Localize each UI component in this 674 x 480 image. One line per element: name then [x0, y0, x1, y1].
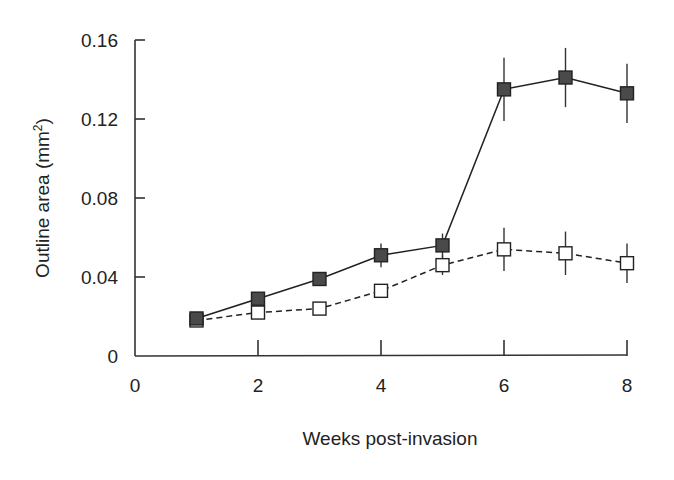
- filled-square-marker: [190, 312, 203, 325]
- series-filled: [190, 48, 634, 325]
- open-square-marker: [559, 247, 572, 260]
- filled-square-marker: [436, 239, 449, 252]
- y-tick-label: 0.12: [81, 109, 118, 130]
- x-tick-label: 6: [499, 375, 510, 396]
- y-axis-title-end: ): [32, 118, 53, 124]
- line-chart: 00.040.080.120.1602468 Weeks post-invasi…: [0, 0, 674, 480]
- filled-square-marker: [252, 292, 265, 305]
- x-tick-label: 4: [376, 375, 387, 396]
- open-square-marker: [375, 284, 388, 297]
- open-square-marker: [436, 259, 449, 272]
- axes: 00.040.080.120.1602468: [81, 30, 632, 396]
- filled-square-marker: [621, 87, 634, 100]
- y-tick-label: 0.16: [81, 30, 118, 51]
- y-tick-label: 0.08: [81, 188, 118, 209]
- open-square-marker: [498, 243, 511, 256]
- open-square-marker: [313, 302, 326, 315]
- y-tick-label: 0: [107, 346, 118, 367]
- y-tick-label: 0.04: [81, 267, 118, 288]
- series-layer: [190, 48, 634, 327]
- filled-square-marker: [498, 83, 511, 96]
- x-axis-title: Weeks post-invasion: [303, 428, 478, 449]
- series-line: [197, 78, 628, 319]
- y-axis-title-main: Outline area (mm: [32, 131, 53, 278]
- open-square-marker: [621, 257, 634, 270]
- y-axis-title: Outline area (mm2): [31, 118, 53, 278]
- x-tick-label: 0: [130, 375, 141, 396]
- open-square-marker: [252, 306, 265, 319]
- x-tick-label: 2: [253, 375, 264, 396]
- filled-square-marker: [559, 71, 572, 84]
- series-open: [190, 228, 634, 327]
- filled-square-marker: [313, 272, 326, 285]
- x-tick-label: 8: [622, 375, 633, 396]
- filled-square-marker: [375, 249, 388, 262]
